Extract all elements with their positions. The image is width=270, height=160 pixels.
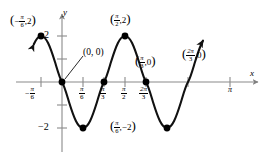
frac-num: 2π [186,48,195,55]
point-min-2 [164,125,171,132]
annotation-max-1: (π2,2) [110,13,131,28]
axes [16,14,258,152]
frac-den: 6 [79,93,85,101]
frac-num: π [114,13,119,20]
frac-den: 3 [139,62,144,70]
y-axis-label: y [63,8,67,17]
frac-num: π [139,55,144,62]
x-tick-label-pi-over-6: π6 [79,86,85,102]
graph-canvas [0,0,270,160]
frac-den: 3 [100,93,106,101]
frac-num: π [114,120,119,127]
annotation-min-1: (π6,−2) [110,120,136,135]
leader-origin [65,56,83,79]
frac-den: 3 [186,55,195,63]
x-tick-label-neg-pi-over-6: −π6 [25,86,35,102]
x-tick-label-pi-over-3: π3 [100,86,106,102]
annotation-zero-2: (2π3,0) [182,48,206,63]
frac-num: π [100,86,106,93]
annotation-origin: (0, 0) [83,48,104,58]
frac-den: 6 [114,127,119,135]
frac-num: π [121,86,127,93]
frac-num: π [79,86,85,93]
frac-den: 3 [139,93,148,101]
y-tick-label-neg2: −2 [38,122,49,132]
x-tick-label-pi: π [228,86,232,94]
graph-figure: y x 2 −2 −π6 π6 π3 π2 2π3 π (−π6,2) (0, … [0,0,270,160]
annotation-y-value: −2 [122,123,132,132]
point-origin [59,79,66,86]
annotation-zero-1: (π3,0) [135,55,156,70]
frac-num: π [19,14,24,21]
x-tick-label-pi-over-2: π2 [121,86,127,102]
frac-den: 6 [19,21,24,29]
frac-den: 6 [30,93,36,101]
frac-num: 2π [139,86,148,93]
frac-num: π [30,86,36,93]
frac-den: 2 [121,93,127,101]
point-min-1 [80,125,87,132]
annotation-max-left: (−π6,2) [10,14,36,29]
callout-leaders [65,56,83,79]
x-tick-label-2pi-over-3: 2π3 [139,86,148,102]
point-max-1 [122,33,129,40]
annotation-y-value: 0 [197,51,202,60]
y-tick-label-2: 2 [44,30,49,40]
frac-den: 2 [114,20,119,28]
x-axis-label: x [250,69,254,78]
